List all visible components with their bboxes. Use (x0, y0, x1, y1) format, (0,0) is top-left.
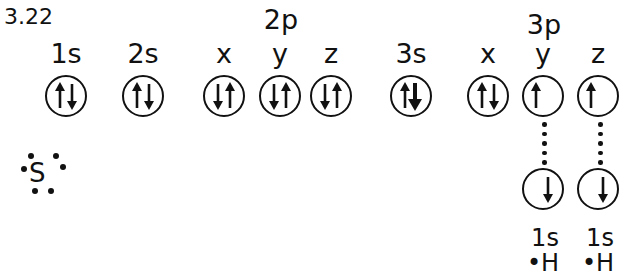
orbital-3py (522, 75, 564, 117)
spin-down-icon (579, 170, 617, 208)
orbital-label-3s: 3s (395, 40, 426, 67)
lewis-symbol-sulfur: S (18, 150, 68, 200)
hydrogen-orbital-2 (577, 168, 619, 210)
element-symbol: S (29, 160, 46, 186)
electron-dot (28, 153, 34, 159)
orbital-3px (467, 75, 509, 117)
orbital-3pz (577, 75, 619, 117)
electron-dot (21, 166, 27, 172)
spin-up-icon (524, 77, 562, 115)
orbital-label-2s: 2s (127, 40, 158, 67)
hydrogen-atom-label-2: •H (582, 251, 614, 275)
electron-dot (53, 153, 59, 159)
hydrogen-atom-label-1: •H (527, 251, 559, 275)
orbital-label-2pz: z (324, 40, 338, 67)
spin-up-down-icon (392, 77, 430, 115)
orbital-3s (390, 75, 432, 117)
electron-dot (32, 188, 38, 194)
hydrogen-orbital-1 (522, 168, 564, 210)
orbital-2s (122, 75, 164, 117)
electron-dot (60, 164, 66, 170)
orbital-label-3px: x (480, 40, 496, 67)
orbital-label-3pz: z (591, 40, 605, 67)
electron-dot (48, 188, 54, 194)
spin-up-down-icon (124, 77, 162, 115)
spin-up-icon (579, 77, 617, 115)
orbital-label-3py: y (535, 40, 551, 67)
orbital-2pz (310, 75, 352, 117)
orbital-label-2py: y (272, 40, 288, 67)
hydrogen-orbital-label-2: 1s (586, 226, 614, 250)
spin-down-up-icon (261, 77, 299, 115)
spin-down-up-icon (205, 77, 243, 115)
figure-number: 3.22 (4, 6, 53, 28)
orbital-label-2px: x (216, 40, 232, 67)
spin-down-icon (524, 170, 562, 208)
hydrogen-orbital-label-1: 1s (531, 226, 559, 250)
spin-down-up-icon (312, 77, 350, 115)
orbital-2px (203, 75, 245, 117)
orbital-label-1s: 1s (50, 40, 81, 67)
orbital-2py (259, 75, 301, 117)
orbital-1s (45, 75, 87, 117)
spin-up-down-icon (469, 77, 507, 115)
spin-up-down-icon (47, 77, 85, 115)
group-label-2p: 2p (264, 6, 298, 33)
bond-line-3pz-h (598, 122, 602, 170)
group-label-3p: 3p (527, 11, 561, 38)
bond-line-3py-h (542, 122, 546, 170)
